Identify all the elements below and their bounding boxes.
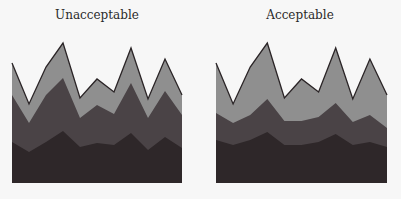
stacked-area-chart-unacceptable <box>12 43 182 183</box>
charts-canvas <box>0 0 401 199</box>
stacked-area-chart-acceptable <box>216 43 387 183</box>
